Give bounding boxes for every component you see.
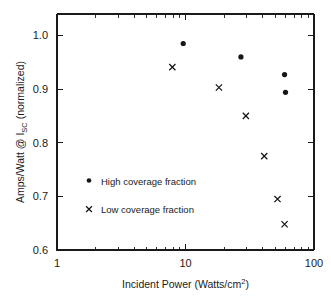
data-point-low-coverage — [243, 113, 249, 119]
x-axis-title-close: ) — [245, 278, 249, 290]
y-axis-title-part1: Amps/Watt @ I — [14, 133, 26, 203]
data-point-low-coverage — [169, 64, 175, 70]
svg-text:Incident Power (Watts/cm2): Incident Power (Watts/cm2) — [122, 277, 249, 290]
legend-label-high-coverage: High coverage fraction — [101, 176, 196, 187]
y-axis-title: Amps/Watt @ ISC (normalized) — [14, 61, 29, 203]
data-point-low-coverage — [281, 221, 287, 227]
y-axis-major-ticks — [57, 35, 314, 250]
data-point-high-coverage — [181, 41, 186, 46]
data-point-high-coverage — [282, 72, 287, 77]
y-axis-title-part2: (normalized) — [14, 61, 26, 122]
y-tick-label: 0.8 — [33, 137, 48, 149]
series-high-coverage-points — [181, 41, 288, 95]
data-point-high-coverage — [283, 90, 288, 95]
series-low-coverage-points — [169, 64, 287, 227]
x-axis-title: Incident Power (Watts/cm2) — [122, 277, 249, 290]
data-point-high-coverage — [238, 54, 243, 59]
y-tick-label: 0.9 — [33, 83, 48, 95]
y-tick-label: 0.6 — [33, 244, 48, 256]
x-axis-tick-labels: 110100 — [54, 257, 323, 269]
scatter-chart-figure: 110100 0.60.70.80.91.0 High coverage fra… — [0, 0, 331, 299]
legend-label-low-coverage: Low coverage fraction — [101, 204, 194, 215]
data-point-low-coverage — [216, 84, 222, 90]
data-point-low-coverage — [274, 196, 280, 202]
x-tick-label: 1 — [54, 257, 60, 269]
svg-text:Amps/Watt @ ISC (normalized): Amps/Watt @ ISC (normalized) — [14, 61, 29, 203]
y-tick-label: 1.0 — [33, 29, 48, 41]
data-point-low-coverage — [261, 153, 267, 159]
chart-legend: High coverage fraction Low coverage frac… — [86, 176, 196, 216]
x-tick-label: 10 — [179, 257, 191, 269]
x-axis-title-base: Incident Power (Watts/cm — [122, 278, 241, 290]
x-tick-label: 100 — [305, 257, 323, 269]
y-axis-title-subscript: SC — [20, 122, 29, 133]
legend-marker-high-coverage — [87, 178, 92, 183]
legend-marker-low-coverage — [86, 206, 92, 212]
chart-canvas: 110100 0.60.70.80.91.0 High coverage fra… — [0, 0, 331, 299]
y-axis-tick-labels: 0.60.70.80.91.0 — [33, 29, 48, 256]
y-tick-label: 0.7 — [33, 190, 48, 202]
